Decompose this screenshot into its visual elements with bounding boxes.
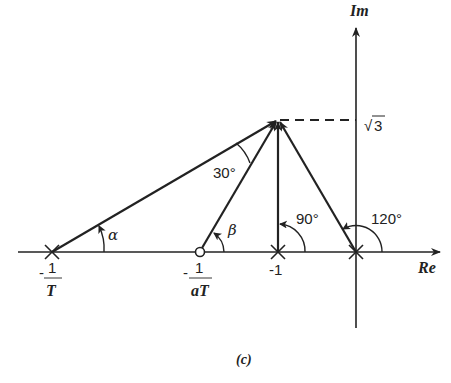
label-minus-1-over-aT: - 1 aT: [183, 259, 212, 299]
arc-90: [280, 224, 305, 252]
root-locus-diagram: Im Re √ 3 α β 30° 90° 120° - 1 T - 1 aT …: [0, 0, 451, 383]
label-minus-1: -1: [269, 261, 282, 278]
svg-text:√: √: [364, 117, 373, 134]
angle-90-label: 90°: [296, 210, 319, 227]
figure-caption: (c): [236, 352, 252, 368]
imag-axis-label: Im: [349, 2, 369, 19]
angle-arcs: [99, 143, 382, 252]
svg-text:-: -: [183, 264, 188, 281]
alpha-arc: [99, 226, 104, 252]
vector-from-origin: [280, 122, 356, 252]
svg-text:T: T: [46, 282, 57, 299]
arc-30: [236, 143, 250, 163]
svg-text:-: -: [39, 264, 44, 281]
angle-30-label: 30°: [213, 164, 236, 181]
real-axis-label: Re: [417, 259, 436, 276]
beta-label: β: [227, 221, 237, 239]
sqrt3-label: √ 3: [364, 116, 385, 134]
zero-marker-icon: [196, 248, 205, 257]
alpha-label: α: [108, 226, 118, 244]
svg-text:aT: aT: [191, 282, 210, 299]
svg-text:3: 3: [374, 117, 382, 134]
vector-from-minus-1-over-T: [52, 121, 276, 252]
svg-text:1: 1: [195, 259, 203, 276]
angle-120-label: 120°: [371, 210, 402, 227]
svg-text:1: 1: [48, 259, 56, 276]
vectors: [52, 121, 356, 252]
beta-arc: [214, 233, 224, 252]
label-minus-1-over-T: - 1 T: [39, 259, 62, 299]
vector-from-zero: [202, 122, 276, 248]
